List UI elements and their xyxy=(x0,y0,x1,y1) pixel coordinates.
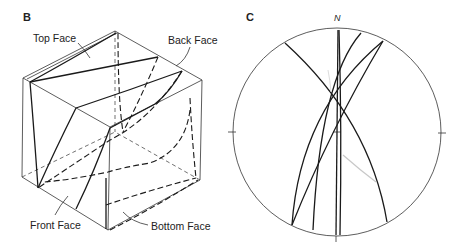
faint-trace xyxy=(343,155,376,182)
cube-hidden-edges xyxy=(22,31,200,180)
stereonet xyxy=(228,28,446,242)
fracture-hidden-traces xyxy=(38,33,198,230)
diagram-canvas xyxy=(0,0,463,246)
cube xyxy=(22,31,202,230)
great-circles xyxy=(285,30,387,235)
